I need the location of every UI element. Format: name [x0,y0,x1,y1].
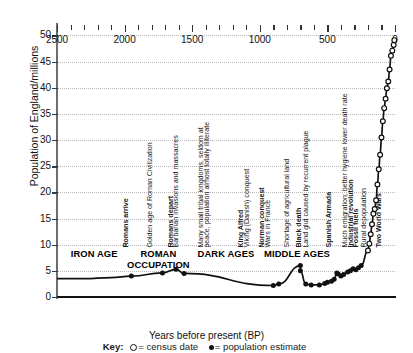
curve-line [57,40,394,285]
estimate-marker-0 [129,274,134,279]
key-census-label: = census date [138,341,198,352]
key-estimate-label: = population estimate [215,341,306,352]
plot-area: 05101520253035404550 2500200015001000500… [57,25,395,297]
census-marker-6 [374,198,379,203]
x-axis-title: Years before present (BP) [0,330,413,341]
y-tick-label-15: 15 [25,214,51,224]
estimate-marker-24 [359,263,364,268]
estimate-marker-1 [160,270,165,275]
y-tick-label-45: 45 [25,57,51,67]
census-marker-4 [371,211,376,216]
chart-key: Key: = census date = population estimate [0,341,413,352]
census-marker-9 [378,152,383,157]
estimate-marker-9 [309,282,314,287]
key-census-entry: = census date [130,341,198,352]
census-marker-10 [379,135,384,140]
census-marker-7 [375,182,380,187]
y-tick-label-0: 0 [25,292,51,302]
census-marker-19 [391,42,396,47]
estimate-marker-2 [173,267,178,272]
estimate-marker-5 [276,281,281,286]
estimate-marker-14 [332,277,337,282]
census-marker-13 [383,96,388,101]
estimate-marker-4 [271,283,276,288]
y-tick-label-25: 25 [25,161,51,171]
census-marker-5 [372,207,377,212]
filled-circle-icon [209,345,214,350]
census-marker-14 [384,86,389,91]
census-marker-20 [392,38,397,43]
census-marker-15 [386,79,391,84]
census-marker-16 [387,67,392,72]
population-curve [57,25,395,297]
y-tick-mark-0 [52,297,58,298]
census-marker-11 [380,119,385,124]
x-tick-mark-0 [395,25,396,32]
open-circle-icon [130,344,137,351]
estimate-marker-10 [317,282,322,287]
census-marker-17 [389,53,394,58]
estimate-marker-7 [298,268,303,273]
estimate-marker-8 [303,281,308,286]
y-tick-label-40: 40 [25,83,51,93]
census-marker-3 [370,222,375,227]
census-marker-1 [367,241,372,246]
census-marker-2 [368,232,373,237]
population-chart: Population of England/millions Years bef… [0,0,413,353]
y-tick-label-20: 20 [25,187,51,197]
estimate-marker-6 [298,263,303,268]
census-marker-8 [376,167,381,172]
census-marker-0 [366,248,371,253]
key-estimate-entry: = population estimate [209,341,306,352]
estimate-marker-3 [182,271,187,276]
census-marker-12 [382,106,387,111]
y-tick-label-30: 30 [25,135,51,145]
y-tick-label-35: 35 [25,109,51,119]
key-label: Key: [103,341,124,352]
census-marker-18 [390,48,395,53]
y-tick-label-5: 5 [25,266,51,276]
